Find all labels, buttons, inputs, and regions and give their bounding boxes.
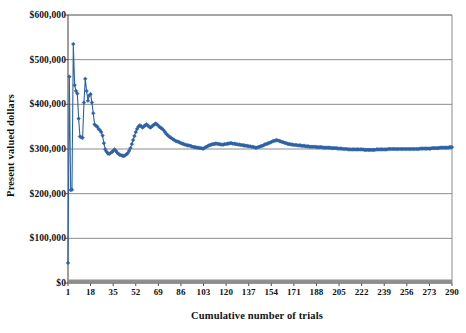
data-series-markers [66, 42, 454, 265]
gridlines [68, 15, 452, 238]
x-axis-title-text: Cumulative number of trials [191, 310, 323, 321]
plot-area [0, 0, 466, 333]
chart-container: Present valued dollars $600,000$500,000$… [0, 0, 466, 333]
x-axis-title: Cumulative number of trials [0, 310, 466, 321]
